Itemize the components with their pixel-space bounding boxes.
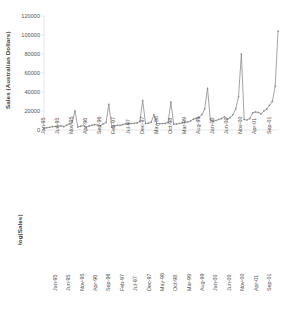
x-tick-label: Jul-97	[132, 276, 138, 291]
chart-panel-log: log(Sales) 1000100001000001000000	[0, 160, 285, 320]
x-tick-label: Oct-98	[172, 275, 178, 291]
x-tick-label: Jun-00	[223, 118, 229, 134]
x-tick-label: Apr-96	[92, 275, 98, 291]
x-tick-label: Jun-95	[65, 275, 71, 291]
x-tick-label: Jan-00	[209, 118, 215, 134]
plot-area-top	[0, 0, 285, 160]
x-tick-label: Sep-01	[266, 274, 272, 291]
x-tick-label: Jun-95	[54, 118, 60, 134]
x-tick-label: Dec-97	[139, 117, 145, 134]
x-tick-label: Oct-98	[167, 118, 173, 134]
x-tick-label: Jan-00	[212, 275, 218, 291]
x-tick-label: Apr-01	[253, 275, 259, 291]
x-tick-label: Jan-95	[40, 118, 46, 134]
x-tick-label: Feb-97	[110, 117, 116, 134]
plot-area-bottom	[0, 160, 285, 320]
x-tick-label: Dec-97	[146, 274, 152, 291]
x-tick-label: Feb-97	[119, 274, 125, 291]
x-tick-label: Jun-00	[226, 275, 232, 291]
x-tick-label: Nov-95	[68, 117, 74, 134]
x-tick-label: Nov-95	[79, 274, 85, 291]
x-tick-label: Sep-01	[266, 117, 272, 134]
x-tick-label: May-98	[159, 273, 165, 291]
x-tick-label: Nov-00	[239, 274, 245, 291]
x-tick-label: Jan-95	[52, 275, 58, 291]
chart-panel-linear: Sales (Australian Dollars) 0200004000060…	[0, 0, 285, 160]
x-tick-label: Sep-96	[96, 117, 102, 134]
x-tick-label: May-98	[153, 116, 159, 134]
x-tick-label: Apr-96	[82, 118, 88, 134]
x-tick-label: Aug-99	[195, 117, 201, 134]
x-tick-label: Sep-96	[105, 274, 111, 291]
x-tick-label: Jul-97	[125, 119, 131, 134]
x-tick-label: Aug-99	[199, 274, 205, 291]
x-tick-label: Apr-01	[251, 118, 257, 134]
x-tick-label: Nov-00	[237, 117, 243, 134]
x-tick-label: Mar-99	[186, 274, 192, 291]
x-tick-label: Mar-99	[181, 117, 187, 134]
